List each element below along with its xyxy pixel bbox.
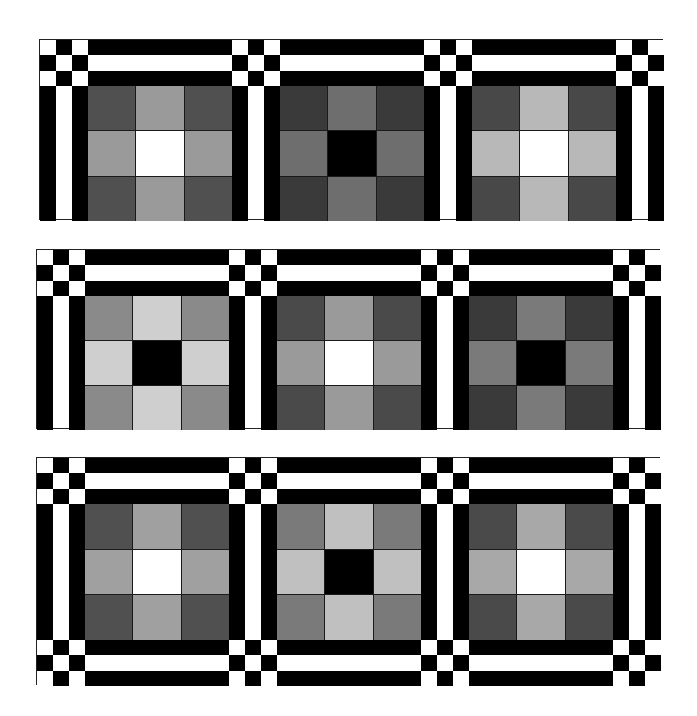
sashing-strip <box>469 489 613 504</box>
block-corner-square <box>377 177 424 221</box>
checker-square <box>629 473 645 488</box>
sashing-strip <box>471 265 611 280</box>
checker-square <box>37 250 53 265</box>
checker-square <box>229 655 245 670</box>
block-corner-square <box>472 177 519 221</box>
checker-square <box>613 473 629 488</box>
cornerstone-checker <box>40 40 88 86</box>
sashing-strip <box>453 296 469 430</box>
checker-square <box>632 71 648 86</box>
checker-square <box>629 640 645 655</box>
sashing-strip <box>229 296 245 430</box>
checker-square <box>56 71 72 86</box>
vertical-sashing <box>37 296 85 430</box>
sashing-strip <box>88 40 232 55</box>
checker-square <box>453 640 469 655</box>
sashing-strip <box>469 281 613 296</box>
quilt-row-2 <box>36 249 660 429</box>
block-corner-square <box>88 86 135 130</box>
block-edge-square <box>517 504 564 549</box>
block-edge-square <box>566 550 613 595</box>
checker-square <box>69 281 85 296</box>
checker-square <box>245 281 261 296</box>
vertical-sashing <box>232 86 280 221</box>
checker-square <box>264 71 280 86</box>
checker-square <box>37 281 53 296</box>
sashing-strip <box>261 296 277 430</box>
sashing-strip <box>53 298 69 428</box>
cornerstone-checker <box>616 40 664 86</box>
checker-square <box>437 281 453 296</box>
checker-square <box>421 250 437 265</box>
block-corner-square <box>182 296 229 340</box>
block-edge-square <box>569 131 616 175</box>
sashing-strip <box>471 473 611 488</box>
sashing-strip <box>645 296 661 430</box>
nine-patch-block <box>88 86 232 221</box>
checker-square <box>69 458 85 473</box>
checker-square <box>69 671 85 686</box>
checker-square <box>245 265 261 280</box>
block-corner-square <box>469 595 516 640</box>
checker-square <box>245 458 261 473</box>
block-center-square <box>325 550 372 595</box>
block-edge-square <box>520 86 567 130</box>
checker-square <box>440 71 456 86</box>
quilt-row-1 <box>39 39 663 220</box>
sashing-strip <box>469 640 613 655</box>
checker-square <box>648 55 664 70</box>
sashing-strip <box>85 671 229 686</box>
sashing-strip <box>69 296 85 430</box>
checker-square <box>229 250 245 265</box>
checker-square <box>648 71 664 86</box>
sashing-strip <box>282 55 422 70</box>
checker-square <box>421 458 437 473</box>
sashing-strip <box>421 296 437 430</box>
sashing-strip <box>85 640 229 655</box>
checker-square <box>229 473 245 488</box>
checker-square <box>229 640 245 655</box>
sashing-strip <box>648 86 664 221</box>
checker-square <box>229 265 245 280</box>
block-edge-square <box>374 550 421 595</box>
block-corner-square <box>280 86 327 130</box>
block-edge-square <box>520 177 567 221</box>
checker-square <box>456 40 472 55</box>
block-corner-square <box>85 296 132 340</box>
horizontal-sashing <box>88 40 232 86</box>
block-edge-square <box>469 341 516 385</box>
block-corner-square <box>185 177 232 221</box>
horizontal-sashing <box>469 640 613 686</box>
block-edge-square <box>469 550 516 595</box>
sashing-strip <box>279 473 419 488</box>
checker-square <box>37 640 53 655</box>
checker-square <box>37 655 53 670</box>
checker-square <box>616 40 632 55</box>
cornerstone-checker <box>232 40 280 86</box>
sashing-strip <box>629 298 645 428</box>
block-corner-square <box>85 595 132 640</box>
checker-square <box>245 655 261 670</box>
block-corner-square <box>377 86 424 130</box>
cornerstone-checker <box>421 250 469 296</box>
sashing-strip <box>87 655 227 670</box>
horizontal-sashing <box>277 250 421 296</box>
horizontal-sashing <box>280 40 424 86</box>
checker-square <box>261 640 277 655</box>
checker-square <box>421 281 437 296</box>
block-edge-square <box>277 341 324 385</box>
checker-square <box>645 473 661 488</box>
vertical-sashing <box>229 504 277 640</box>
checker-square <box>53 655 69 670</box>
vertical-sashing <box>40 86 88 221</box>
checker-square <box>629 655 645 670</box>
block-edge-square <box>133 386 180 430</box>
block-edge-square <box>133 504 180 549</box>
block-edge-square <box>517 595 564 640</box>
checker-square <box>437 671 453 686</box>
vertical-sashing <box>37 504 85 640</box>
vertical-sashing <box>616 86 664 221</box>
checker-square <box>437 655 453 670</box>
sashing-strip <box>87 265 227 280</box>
nine-patch-block <box>469 504 613 640</box>
